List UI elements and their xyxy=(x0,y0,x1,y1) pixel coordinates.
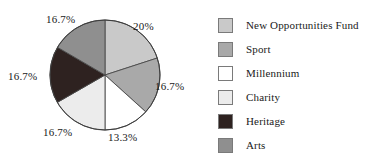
legend-item-millennium[interactable]: Millennium xyxy=(218,61,366,85)
legend-swatch-icon xyxy=(218,18,233,33)
pie-plot-area: 20% 16.7% 13.3% 16.7% 16.7% 16.7% xyxy=(0,0,215,162)
legend-item-arts[interactable]: Arts xyxy=(218,133,366,157)
slice-label-millennium: 13.3% xyxy=(108,131,137,143)
pie-chart-figure: 20% 16.7% 13.3% 16.7% 16.7% 16.7% New Op… xyxy=(0,0,367,162)
slice-label-heritage: 16.7% xyxy=(8,70,37,82)
legend-label: Heritage xyxy=(246,115,285,127)
legend-label: Sport xyxy=(246,43,271,55)
legend-label: Millennium xyxy=(246,67,299,79)
legend-swatch-icon xyxy=(218,42,233,57)
legend-swatch-icon xyxy=(218,138,233,153)
legend-label: New Opportunities Fund xyxy=(246,19,359,31)
legend-item-heritage[interactable]: Heritage xyxy=(218,109,366,133)
legend-item-sport[interactable]: Sport xyxy=(218,37,366,61)
slice-label-new-opportunities-fund: 20% xyxy=(133,20,154,32)
chart-legend: New Opportunities Fund Sport Millennium … xyxy=(218,13,366,157)
pie-slice-group xyxy=(50,20,160,130)
slice-label-sport: 16.7% xyxy=(155,80,184,92)
legend-item-charity[interactable]: Charity xyxy=(218,85,366,109)
legend-swatch-icon xyxy=(218,66,233,81)
legend-swatch-icon xyxy=(218,90,233,105)
legend-label: Arts xyxy=(246,139,266,151)
legend-item-new-opportunities-fund[interactable]: New Opportunities Fund xyxy=(218,13,366,37)
slice-label-charity: 16.7% xyxy=(43,126,72,138)
legend-swatch-icon xyxy=(218,114,233,129)
slice-label-arts: 16.7% xyxy=(46,13,75,25)
legend-label: Charity xyxy=(246,91,280,103)
